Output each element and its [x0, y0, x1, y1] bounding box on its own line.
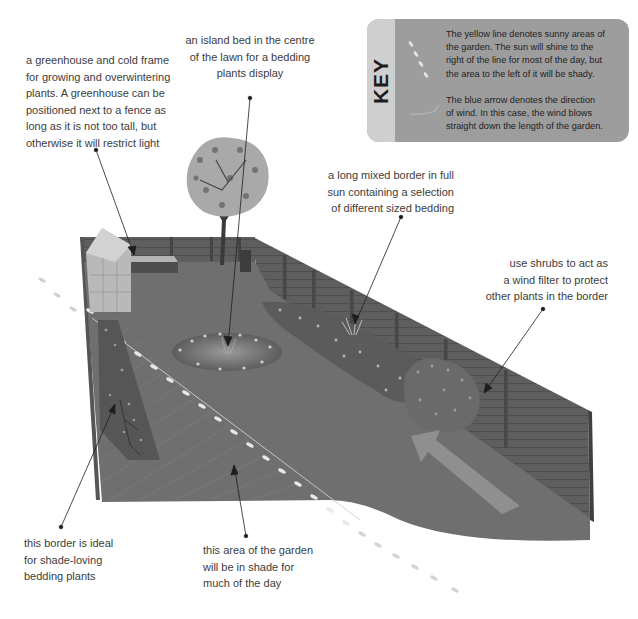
key-title: KEY — [367, 19, 395, 142]
annotation-line: a wind filter to protect — [470, 272, 608, 289]
annotation-line: will be in shade for — [203, 559, 313, 576]
annotation-line: much of the day — [203, 575, 313, 592]
annotation-line: for shade-loving — [24, 552, 113, 569]
key-line: of wind. In this case, the wind blows — [446, 108, 592, 118]
annotation-line: use shrubs to act as — [470, 255, 608, 272]
annotation-line: plants. A greenhouse can be — [26, 85, 170, 102]
wind-arrow-icon — [410, 105, 439, 114]
key-line: the garden. The sun will shine to the — [446, 42, 593, 52]
key-line: right of the line for most of the day, b… — [446, 55, 602, 65]
sun-line-dashes-icon — [408, 41, 429, 79]
water-butt — [240, 250, 251, 272]
annotation-line: sun containing a selection — [318, 184, 454, 201]
annotation-line: for growing and overwintering — [26, 69, 170, 86]
key-line: The yellow line denotes sunny areas of — [446, 29, 605, 39]
key-line: straight down the length of the garden. — [446, 121, 603, 131]
annotation-line: positioned next to a fence as — [26, 102, 170, 119]
key-legend: KEY The yellow line denotes sunny areas … — [367, 19, 629, 142]
key-sun-description: The yellow line denotes sunny areas of t… — [446, 28, 626, 81]
key-wind-description: The blue arrow denotes the direction of … — [446, 94, 626, 134]
annotation-line: a greenhouse and cold frame — [26, 52, 170, 69]
annotation-line: of different sized bedding — [318, 200, 454, 217]
annotation-line: other plants in the border — [470, 288, 608, 305]
annotation-line: this area of the garden — [203, 542, 313, 559]
key-title-text: KEY — [369, 57, 393, 103]
key-line: the area to the left of it will be shady… — [446, 69, 594, 79]
cold-frame — [131, 256, 178, 273]
annotation-line: an island bed in the centre — [180, 32, 320, 49]
annotation-greenhouse: a greenhouse and cold frame for growing … — [26, 52, 170, 151]
annotation-line: this border is ideal — [24, 535, 113, 552]
annotation-line: bedding plants — [24, 568, 113, 585]
annotation-shade-border: this border is ideal for shade-loving be… — [24, 535, 113, 585]
annotation-line: long as it is not too tall, but — [26, 118, 170, 135]
key-text: The yellow line denotes sunny areas of t… — [446, 28, 626, 133]
annotation-line: a long mixed border in full — [318, 167, 454, 184]
key-symbols — [397, 19, 442, 142]
annotation-line: of the lawn for a bedding — [180, 49, 320, 66]
annotation-line: plants display — [180, 65, 320, 82]
annotation-shade-area: this area of the garden will be in shade… — [203, 542, 313, 592]
annotation-island-bed: an island bed in the centre of the lawn … — [180, 32, 320, 82]
key-line: The blue arrow denotes the direction — [446, 95, 595, 105]
annotation-line: otherwise it will restrict light — [26, 135, 170, 152]
annotation-shrubs: use shrubs to act as a wind filter to pr… — [470, 255, 608, 305]
annotation-mixed-border: a long mixed border in full sun containi… — [318, 167, 454, 217]
